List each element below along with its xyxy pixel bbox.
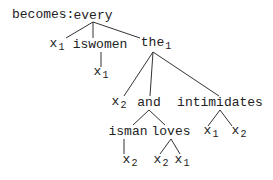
tree-node-x2b: x2 [232, 124, 247, 142]
prefix-label: becomes: [12, 8, 74, 22]
tree-node-every: every [73, 9, 112, 23]
node-text: x [94, 64, 102, 79]
node-subscript: 1 [58, 42, 64, 53]
node-subscript: 2 [240, 129, 246, 140]
tree-node-x2a: x2 [112, 95, 127, 113]
tree-node-loves: loves [151, 125, 190, 139]
tree-edge [220, 110, 232, 126]
node-text: x [232, 123, 240, 138]
node-subscript: 1 [212, 129, 218, 140]
tree-edge [93, 22, 140, 38]
node-subscript: 1 [183, 158, 189, 169]
tree-node-x2c: x2 [123, 153, 138, 171]
tree-edge [149, 110, 165, 125]
tree-node-x2d: x2 [154, 153, 169, 171]
tree-node-and: and [137, 96, 160, 110]
tree-edge [153, 52, 219, 96]
tree-edge [160, 139, 171, 154]
node-text: x [175, 152, 183, 167]
tree-node-x1a: x1 [50, 37, 65, 55]
node-text: x [123, 152, 131, 167]
node-text: isman [108, 124, 147, 139]
tree-node-x1c: x1 [204, 124, 219, 142]
node-text: x [154, 152, 162, 167]
node-text: iswomen [73, 37, 128, 52]
tree-node-intimidates: intimidates [177, 96, 263, 110]
tree-node-isman: isman [108, 125, 147, 139]
node-subscript: 1 [165, 41, 171, 52]
tree-edge [66, 22, 93, 38]
tree-edge [150, 52, 153, 96]
prefix-text: becomes: [12, 7, 74, 22]
node-text: the [141, 35, 164, 50]
node-text: loves [151, 124, 190, 139]
node-text: and [137, 95, 160, 110]
node-text: x [50, 36, 58, 51]
node-subscript: 1 [102, 70, 108, 81]
node-text: x [112, 94, 120, 109]
tree-node-the1: the1 [141, 36, 171, 54]
node-subscript: 2 [120, 100, 126, 111]
node-text: intimidates [177, 95, 263, 110]
tree-node-iswomen: iswomen [73, 38, 128, 52]
tree-edge [133, 110, 149, 125]
node-text: every [73, 8, 112, 23]
tree-node-x1b: x1 [94, 65, 109, 83]
tree-edge [124, 52, 153, 96]
node-subscript: 2 [162, 158, 168, 169]
tree-node-x1d: x1 [175, 153, 190, 171]
node-text: x [204, 123, 212, 138]
node-subscript: 2 [131, 158, 137, 169]
